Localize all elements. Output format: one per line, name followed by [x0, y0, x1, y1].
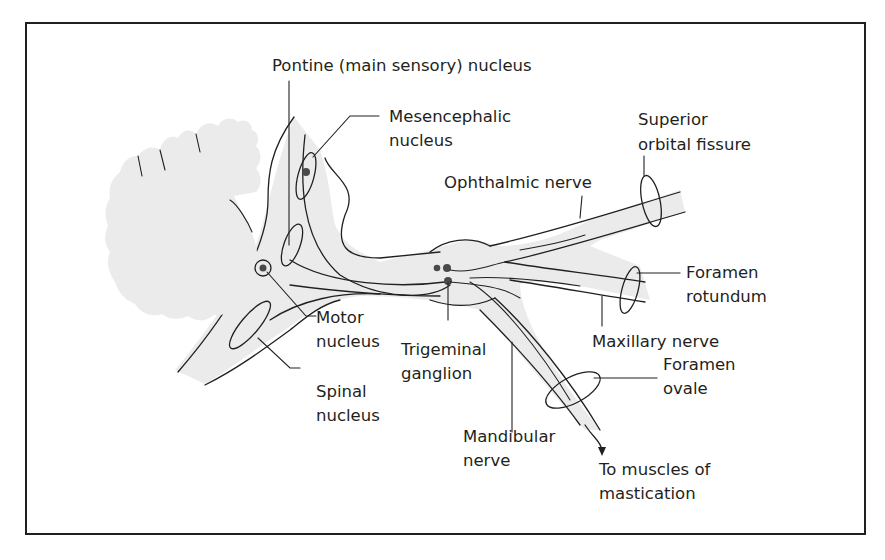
label-trigeminal-2: ganglion: [401, 364, 472, 383]
label-foramen-ovale: Foramen: [663, 355, 736, 374]
label-mastication-2: mastication: [599, 484, 696, 503]
label-spinal-2: nucleus: [316, 406, 380, 425]
label-motor: Motor: [316, 308, 364, 327]
trigeminal-nerve-diagram: Pontine (main sensory) nucleus Mesenceph…: [0, 0, 885, 560]
label-maxillary-nerve: Maxillary nerve: [592, 332, 719, 351]
label-pontine-nucleus: Pontine (main sensory) nucleus: [272, 56, 532, 75]
label-trigeminal: Trigeminal: [400, 340, 486, 359]
label-superior-orbital-2: orbital fissure: [638, 135, 751, 154]
label-mesencephalic: Mesencephalic: [389, 107, 511, 126]
label-mesencephalic-2: nucleus: [389, 131, 453, 150]
label-foramen-ovale-2: ovale: [663, 379, 708, 398]
label-mandibular: Mandibular: [463, 427, 555, 446]
label-mandibular-2: nerve: [463, 451, 510, 470]
label-ophthalmic-nerve: Ophthalmic nerve: [444, 173, 592, 192]
label-motor-2: nucleus: [316, 332, 380, 351]
label-spinal: Spinal: [316, 382, 367, 401]
label-superior-orbital: Superior: [638, 110, 708, 129]
label-foramen-rotundum: Foramen: [686, 263, 759, 282]
label-foramen-rotundum-2: rotundum: [686, 287, 767, 306]
label-mastication: To muscles of: [598, 460, 711, 479]
